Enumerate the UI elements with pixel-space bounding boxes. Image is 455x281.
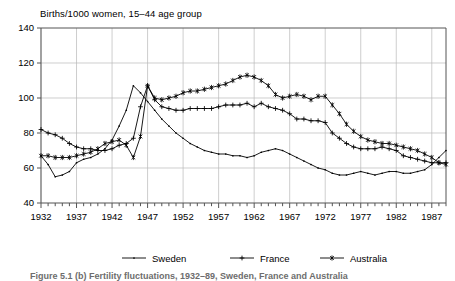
series-marker-australia [131, 155, 135, 160]
series-marker-sweden [97, 153, 99, 155]
x-tick-label: 1977 [350, 211, 371, 222]
series-marker-sweden [381, 172, 383, 174]
series-marker-sweden [125, 109, 127, 111]
series-marker-sweden [211, 151, 213, 153]
series-marker-sweden [445, 150, 447, 152]
y-tick-label: 100 [18, 92, 34, 103]
series-marker-sweden [367, 172, 369, 174]
series-marker-sweden [196, 146, 198, 148]
x-tick-label: 1947 [137, 211, 158, 222]
series-marker-sweden [310, 164, 312, 166]
x-tick-label: 1932 [30, 211, 51, 222]
series-marker-france [209, 106, 214, 111]
series-marker-sweden [324, 169, 326, 171]
series-marker-france [351, 145, 356, 150]
series-marker-france [166, 106, 171, 111]
series-marker-sweden [76, 162, 78, 164]
series-marker-sweden [388, 171, 390, 173]
y-tick-label: 40 [23, 197, 34, 208]
series-marker-france [266, 104, 271, 109]
series-marker-france [46, 131, 51, 136]
series-marker-australia [359, 134, 363, 139]
series-marker-sweden [118, 125, 120, 127]
series-marker-france [415, 157, 420, 162]
series-marker-sweden [353, 172, 355, 174]
series-marker-france [230, 103, 235, 108]
figure-caption: Figure 5.1 (b) Fertility fluctuations, 1… [30, 271, 450, 281]
series-marker-australia [231, 78, 235, 83]
x-tick-label: 1972 [315, 211, 336, 222]
series-marker-australia [330, 102, 334, 107]
series-marker-france [216, 104, 221, 109]
series-marker-france [202, 106, 207, 111]
series-marker-france [81, 146, 86, 151]
series-marker-sweden [296, 157, 298, 159]
series-marker-france [174, 108, 179, 113]
series-marker-australia [430, 155, 434, 160]
series-marker-france [188, 106, 193, 111]
series-marker-france [110, 146, 115, 151]
series-marker-australia [139, 134, 143, 139]
x-tick-label: 1962 [244, 211, 265, 222]
y-tick-label: 140 [18, 22, 34, 33]
series-marker-sweden [275, 148, 277, 150]
legend-label-sweden: Sweden [152, 253, 186, 264]
series-marker-australia [423, 151, 427, 156]
series-marker-sweden [417, 171, 419, 173]
series-marker-sweden [239, 155, 241, 157]
series-marker-sweden [161, 118, 163, 120]
series-marker-sweden [218, 153, 220, 155]
series-marker-sweden [154, 109, 156, 111]
series-marker-australia [124, 143, 128, 148]
series-marker-australia [259, 78, 263, 83]
series-marker-sweden [268, 150, 270, 152]
series-marker-sweden [339, 174, 341, 176]
series-marker-france [429, 160, 434, 165]
x-tick-label: 1937 [66, 211, 87, 222]
series-marker-sweden [260, 151, 262, 153]
series-marker-france [103, 148, 108, 153]
series-marker-france [138, 104, 143, 109]
series-marker-sweden [175, 132, 177, 134]
series-marker-sweden [61, 174, 63, 176]
series-marker-sweden [69, 171, 71, 173]
fertility-line-chart: Births/1000 women, 15–44 age group 40608… [0, 0, 455, 281]
series-marker-australia [96, 146, 100, 151]
series-marker-france [422, 159, 427, 164]
series-marker-france [39, 127, 44, 132]
series-marker-sweden [253, 155, 255, 157]
series-marker-sweden [374, 174, 376, 176]
series-marker-france [301, 117, 306, 122]
series-marker-france [280, 108, 285, 113]
series-marker-france [316, 118, 321, 123]
series-marker-sweden [282, 150, 284, 152]
series-marker-sweden [83, 158, 85, 160]
series-marker-france [74, 145, 79, 150]
series-marker-australia [352, 129, 356, 134]
x-tick-label: 1967 [279, 211, 300, 222]
series-marker-australia [309, 97, 313, 102]
series-marker-sweden [168, 125, 170, 127]
series-marker-sweden [289, 153, 291, 155]
series-marker-france [252, 104, 257, 109]
x-tick-label: 1987 [421, 211, 442, 222]
series-marker-france [181, 108, 186, 113]
series-marker-sweden [424, 169, 426, 171]
y-tick-label: 60 [23, 162, 34, 173]
legend-label-australia: Australia [350, 253, 388, 264]
series-marker-australia [345, 122, 349, 127]
series-marker-france [358, 146, 363, 151]
series-marker-sweden [47, 164, 49, 166]
series-marker-sweden [225, 153, 227, 155]
series-marker-france [373, 146, 378, 151]
series-marker-sweden [331, 172, 333, 174]
series-marker-sweden [438, 157, 440, 159]
series-marker-sweden [90, 157, 92, 159]
series-marker-france [238, 103, 243, 108]
series-line-sweden [41, 86, 446, 177]
series-marker-sweden [403, 172, 405, 174]
series-marker-france [408, 155, 413, 160]
series-marker-france [365, 146, 370, 151]
x-tick-label: 1957 [208, 211, 229, 222]
series-marker-sweden [133, 85, 135, 87]
